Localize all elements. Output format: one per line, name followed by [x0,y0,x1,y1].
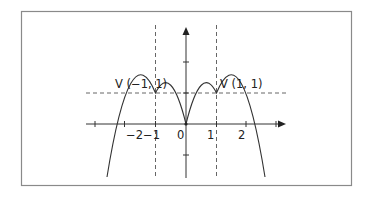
function-graph-figure: V (−1, 1) V (1, 1) −2 −1 0 1 2 [0,0,370,197]
x-tick-label-1: 1 [207,128,214,142]
x-tick-label-0: 0 [177,128,184,142]
origin-point [184,122,187,125]
vertex-label-right: V (1, 1) [220,77,262,91]
x-tick-label-neg2: −2 [126,128,143,142]
vertex-label-left: V (−1, 1) [115,77,167,91]
x-tick-label-2: 2 [238,128,245,142]
x-tick-label-neg1: −1 [143,128,160,142]
